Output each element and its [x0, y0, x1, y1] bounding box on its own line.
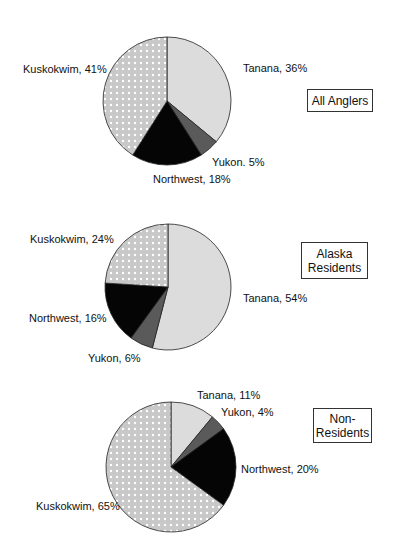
pie-slice-kuskokwim: [105, 224, 168, 287]
slice-label-kuskokwim: Kuskokwim, 65%: [36, 500, 120, 512]
chart-title-non-residents: Non- Residents: [313, 408, 372, 443]
slice-label-northwest: Northwest, 16%: [29, 312, 107, 324]
slice-label-northwest: Northwest, 18%: [153, 173, 231, 185]
slice-label-kuskokwim: Kuskokwim, 24%: [30, 233, 114, 245]
slice-label-tanana: Tanana, 11%: [197, 389, 261, 401]
slice-label-kuskokwim: Kuskokwim, 41%: [23, 63, 107, 75]
slice-label-yukon: Yukon, 4%: [221, 406, 274, 418]
slice-label-tanana: Tanana, 36%: [243, 62, 307, 74]
pie-chart-non-residents: Tanana, 11%Yukon, 4%Northwest, 20%Kuskok…: [36, 389, 319, 532]
slice-label-yukon: Yukon. 5%: [212, 156, 265, 168]
chart-title-text: Alaska Residents: [308, 247, 361, 275]
pie-chart-alaska-residents: Tanana, 54%Yukon, 6%Northwest, 16%Kuskok…: [29, 224, 307, 364]
slice-label-northwest: Northwest, 20%: [241, 463, 319, 475]
slice-label-yukon: Yukon, 6%: [88, 352, 141, 364]
chart-title-text: Non- Residents: [316, 412, 369, 440]
chart-title-all-anglers: All Anglers: [307, 89, 373, 112]
chart-title-alaska-residents: Alaska Residents: [301, 242, 368, 279]
slice-label-tanana: Tanana, 54%: [243, 292, 307, 304]
chart-title-text: All Anglers: [312, 94, 369, 108]
pie-chart-all-anglers: Tanana, 36%Yukon. 5%Northwest, 18%Kuskok…: [23, 37, 307, 185]
